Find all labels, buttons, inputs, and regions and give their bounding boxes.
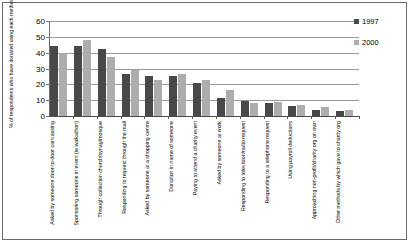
bar-group bbox=[216, 21, 240, 116]
bar-1997 bbox=[50, 46, 58, 116]
x-axis-label-text: Using payroll deductions bbox=[287, 121, 293, 241]
chart-frame: % of respondents who have donated using … bbox=[2, 2, 407, 240]
bar-1997 bbox=[145, 76, 153, 116]
x-axis-line bbox=[49, 116, 360, 117]
bar-2000 bbox=[59, 53, 67, 116]
bar-1997 bbox=[312, 110, 320, 116]
x-axis-label-text: Paying to attend a charity event bbox=[192, 121, 198, 241]
bar-1997 bbox=[336, 111, 344, 116]
bar-group bbox=[264, 21, 288, 116]
bar-group bbox=[192, 21, 216, 116]
legend-swatch bbox=[354, 40, 359, 45]
bar-1997 bbox=[122, 74, 130, 116]
bar-2000 bbox=[154, 80, 162, 116]
x-axis-tick-mark bbox=[192, 116, 193, 119]
bar-2000 bbox=[250, 103, 258, 116]
bar-1997 bbox=[217, 98, 225, 116]
bar-2000 bbox=[131, 70, 139, 116]
chart-legend: 19972000 bbox=[354, 17, 400, 59]
legend-swatch bbox=[354, 19, 359, 24]
y-axis-tick-label: 20 bbox=[11, 80, 45, 89]
x-axis-tick-mark bbox=[144, 116, 145, 119]
y-axis-tick-label: 30 bbox=[11, 64, 45, 73]
bar-1997 bbox=[98, 49, 106, 116]
bar-group bbox=[121, 21, 145, 116]
legend-label: 2000 bbox=[362, 38, 379, 47]
x-axis-tick-mark bbox=[168, 116, 169, 119]
x-axis-label-text: Approaching non-profit/charity org on ow… bbox=[311, 121, 317, 241]
x-axis-tick-mark bbox=[335, 116, 336, 119]
y-axis-tick-mark bbox=[46, 116, 49, 117]
bar-group bbox=[287, 21, 311, 116]
x-axis-label-text: Asked by someone door-to-door canvassing bbox=[49, 121, 55, 241]
x-axis-label-text: Asked by someone at a shopping centre bbox=[144, 121, 150, 241]
bar-group bbox=[240, 21, 264, 116]
bar-2000 bbox=[83, 40, 91, 116]
bar-group bbox=[168, 21, 192, 116]
x-axis-label-text: Asked by someone at work bbox=[216, 121, 222, 241]
bar-1997 bbox=[169, 76, 177, 116]
x-axis-tick-mark bbox=[359, 116, 360, 119]
y-axis-tick-label: 60 bbox=[11, 17, 45, 26]
x-axis-tick-mark bbox=[264, 116, 265, 119]
bar-group bbox=[97, 21, 121, 116]
bar-1997 bbox=[74, 46, 82, 116]
bar-2000 bbox=[274, 102, 282, 116]
y-axis-tick-label: 50 bbox=[11, 32, 45, 41]
bar-1997 bbox=[193, 83, 201, 116]
x-axis-label-text: Responding to a telephone request bbox=[264, 121, 270, 241]
x-axis-label-text: Donation in name of someone bbox=[168, 121, 174, 241]
legend-item-1997[interactable]: 1997 bbox=[354, 17, 400, 26]
bar-group bbox=[73, 21, 97, 116]
x-axis-label-text: Responding to request through the mail bbox=[121, 121, 127, 241]
x-axis-labels: Asked by someone door-to-door canvassing… bbox=[49, 121, 359, 243]
bar-2000 bbox=[226, 90, 234, 116]
y-axis-tick-label: 0 bbox=[11, 112, 45, 121]
plot-area bbox=[49, 21, 359, 116]
x-axis-tick-mark bbox=[311, 116, 312, 119]
x-axis-label: Other methods by which gave to charity o… bbox=[335, 121, 411, 141]
x-axis-label-text: Through collection church/synag/mosque bbox=[97, 121, 103, 241]
bar-group bbox=[311, 21, 335, 116]
x-axis-label-text: Responding to television/radio request bbox=[240, 121, 246, 241]
x-axis-tick-mark bbox=[216, 116, 217, 119]
bar-2000 bbox=[202, 80, 210, 116]
x-axis-tick-mark bbox=[240, 116, 241, 119]
legend-item-2000[interactable]: 2000 bbox=[354, 38, 400, 47]
bar-group bbox=[49, 21, 73, 116]
y-axis-tick-label: 10 bbox=[11, 96, 45, 105]
bar-2000 bbox=[107, 57, 115, 116]
bar-1997 bbox=[241, 101, 249, 116]
x-axis-tick-mark bbox=[287, 116, 288, 119]
bar-1997 bbox=[265, 103, 273, 116]
x-axis-tick-mark bbox=[121, 116, 122, 119]
x-axis-label-text: Sponsoring someone in event (ie walkatho… bbox=[73, 121, 79, 241]
bar-1997 bbox=[288, 106, 296, 116]
bar-2000 bbox=[178, 74, 186, 116]
x-axis-label-text: Other methods by which gave to charity o… bbox=[335, 121, 341, 241]
x-axis-tick-mark bbox=[97, 116, 98, 119]
x-axis-tick-mark bbox=[73, 116, 74, 119]
bar-2000 bbox=[321, 107, 329, 116]
y-axis-tick-label: 40 bbox=[11, 48, 45, 57]
bar-group bbox=[144, 21, 168, 116]
bar-2000 bbox=[345, 110, 353, 116]
bar-2000 bbox=[297, 105, 305, 116]
legend-label: 1997 bbox=[362, 17, 379, 26]
